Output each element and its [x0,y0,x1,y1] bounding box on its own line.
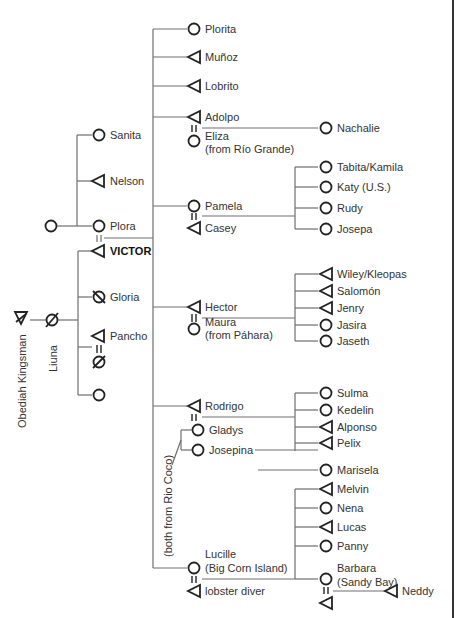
svg-text:Nelson: Nelson [110,175,144,187]
svg-text:VICTOR: VICTOR [110,245,151,257]
svg-text:Jenry: Jenry [337,302,364,314]
svg-text:Lucas: Lucas [337,521,367,533]
svg-text:(Sandy Bay): (Sandy Bay) [337,576,398,588]
svg-text:Plora: Plora [110,220,137,232]
person-gloria: Gloria [93,291,140,303]
person-maura: Maura (from Páhara) [189,316,273,341]
svg-text:Hector: Hector [205,301,238,313]
person-nachalie: Nachalie [321,122,380,134]
person-unnamed-female [94,390,105,401]
person-hector: Hector [188,301,238,313]
person-salomon: Salomón [320,285,380,297]
svg-text:Barbara: Barbara [337,562,377,574]
svg-text:Wiley/Kleopas: Wiley/Kleopas [337,268,407,280]
person-lucille: Lucille (Big Corn Island) [189,548,288,574]
person-munoz: Muñoz [188,51,238,63]
svg-text:Salomón: Salomón [337,285,380,297]
svg-text:Rodrigo: Rodrigo [205,400,244,412]
person-tabita-kamila: Tabita/Kamila [321,161,404,173]
svg-text:Panny: Panny [337,540,369,552]
svg-text:Alponso: Alponso [337,421,377,433]
person-jaseth: Jaseth [321,335,370,347]
svg-text:Nena: Nena [337,502,364,514]
person-lucas: Lucas [320,521,367,533]
person-adolpo: Adolpo [188,111,239,123]
svg-text:Josepina: Josepina [209,444,254,456]
person-rodrigo: Rodrigo [188,400,244,412]
person-marisela: Marisela [321,464,380,476]
svg-text:Maura: Maura [205,316,237,328]
person-neddy: Neddy [385,585,434,597]
ancestor-obediah: Obediah Kingsman [15,312,28,428]
person-nelson: Nelson [92,175,144,187]
svg-text:(Big Corn Island): (Big Corn Island) [205,562,288,574]
svg-text:Pelix: Pelix [337,437,361,449]
svg-text:Jaseth: Jaseth [337,335,369,347]
person-kedelin: Kedelin [321,404,374,416]
svg-text:Kedelin: Kedelin [337,404,374,416]
person-wiley-kleopas: Wiley/Kleopas [320,268,407,280]
person-panny: Panny [321,540,369,552]
svg-text:(from Páhara): (from Páhara) [205,329,273,341]
person-pamela: Pamela [189,200,244,212]
svg-text:Casey: Casey [205,222,237,234]
svg-text:Sanita: Sanita [110,129,142,141]
person-jenry: Jenry [320,302,364,314]
obediah-label: Obediah Kingsman [16,334,28,428]
svg-text:Neddy: Neddy [402,585,434,597]
plora-parent-symbol [46,221,57,232]
person-plora: Plora [94,220,137,232]
person-barbara: Barbara (Sandy Bay) [321,562,398,588]
svg-text:Adolpo: Adolpo [205,111,239,123]
person-josepina: Josepina [193,444,254,456]
person-barbara-husband [320,597,332,609]
svg-text:Gloria: Gloria [110,291,140,303]
kinship-diagram: Obediah Kingsman Liuna Sanita Nelson Plo… [0,0,459,618]
svg-text:Gladys: Gladys [209,424,244,436]
svg-text:Melvin: Melvin [337,483,369,495]
person-sanita: Sanita [94,129,143,141]
person-alponso: Alponso [320,421,377,433]
person-plorita: Plorita [189,23,238,35]
liuna-label: Liuna [47,344,59,372]
person-lobrito: Lobrito [188,80,239,92]
person-katy: Katy (U.S.) [321,181,391,193]
svg-text:Jasira: Jasira [337,319,367,331]
person-rudy: Rudy [321,202,364,214]
svg-text:Lobrito: Lobrito [205,80,239,92]
person-pancho: Pancho [92,330,147,368]
svg-text:Plorita: Plorita [205,23,237,35]
svg-text:Marisela: Marisela [337,464,379,476]
svg-text:Pamela: Pamela [205,200,243,212]
ancestor-liuna: Liuna [46,313,59,372]
svg-text:Pancho: Pancho [110,330,147,342]
svg-text:(from Río Grande): (from Río Grande) [205,143,294,155]
svg-text:lobster diver: lobster diver [205,585,265,597]
person-eliza: Eliza (from Río Grande) [189,130,295,155]
person-nena: Nena [321,502,365,514]
person-melvin: Melvin [320,483,369,495]
rio-coco-note: (both from Rio Coco) [162,455,174,557]
svg-text:Rudy: Rudy [337,202,363,214]
person-jasira: Jasira [321,319,368,331]
person-sulma: Sulma [321,387,370,399]
svg-text:Muñoz: Muñoz [205,51,238,63]
svg-text:Tabita/Kamila: Tabita/Kamila [337,161,404,173]
person-victor-ego: VICTOR [92,245,151,257]
person-gladys: Gladys [193,424,244,436]
svg-text:Eliza: Eliza [205,130,230,142]
person-casey: Casey [188,222,237,234]
person-pelix: Pelix [320,437,361,449]
svg-text:Katy (U.S.): Katy (U.S.) [337,181,391,193]
person-josepa: Josepa [321,223,374,235]
person-lobster-diver: lobster diver [188,585,265,597]
svg-text:Sulma: Sulma [337,387,369,399]
svg-text:Lucille: Lucille [205,548,236,560]
svg-text:Josepa: Josepa [337,223,373,235]
svg-text:Nachalie: Nachalie [337,122,380,134]
